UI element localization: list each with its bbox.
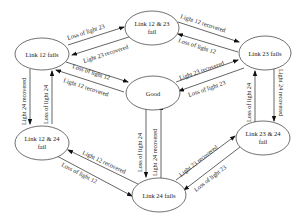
node-link-12-23-fail: Link 12 & 23 fail <box>125 11 179 45</box>
edge-l1223-to-l12: Light 23 recovered <box>72 36 132 64</box>
node-link-12-24-fail: Link 12 & 24 fail <box>15 126 69 160</box>
edge-label: Loss of light 12 <box>178 36 217 55</box>
node-link-23-24-fail: Link 23 & 24 fail <box>236 121 290 155</box>
edge-label: Loss of light 24 <box>136 133 143 172</box>
node-label: Link 12 fails <box>25 51 59 58</box>
node-label-line2: fail <box>259 138 268 145</box>
edge-good-to-l23: Light 23 recovered <box>176 59 238 82</box>
node-label: Link 12 & 23 <box>134 20 169 27</box>
edge-l2324-to-l23: Loss of light 24 <box>245 71 255 123</box>
edge-label: Light 24 recovered <box>20 77 27 125</box>
edge-l23-to-l2324: Light 24 recovered <box>274 67 285 121</box>
edge-label: Loss of light 12 <box>72 62 111 81</box>
edge-label: Loss of light 24 <box>245 83 252 122</box>
node-label: Link 23 & 24 <box>245 130 281 137</box>
node-label: Link 12 & 24 <box>24 135 60 142</box>
edge-label: Light 23 recovered <box>178 59 226 81</box>
edge-label: Loss of light 24 <box>42 85 49 124</box>
node-good: Good <box>126 76 180 110</box>
node-label: Good <box>146 90 161 97</box>
node-link-23-fails: Link 23 fails <box>239 36 291 70</box>
edge-l24-to-good: Light 24 recovered <box>151 105 161 178</box>
node-label: Link 24 fails <box>142 192 176 199</box>
edge-label: Loss of light 23 <box>192 163 227 193</box>
edge-l12-to-l1224: Light 24 recovered <box>20 69 30 125</box>
edge-l23-to-l1223: Loss of light 12 <box>178 34 238 55</box>
state-diagram: Loss of light 23 Light 23 recovered Ligh… <box>0 0 302 220</box>
node-link-12-fails: Link 12 fails <box>15 38 69 70</box>
edge-label: Light 12 recovered <box>63 76 111 97</box>
edge-l1224-to-l12: Loss of light 24 <box>42 71 52 124</box>
edge-label: Loss of light 12 <box>61 161 99 185</box>
node-label-line2: fail <box>38 143 47 150</box>
edge-label: Light 23 recovered <box>82 42 130 63</box>
node-link-24-fails: Link 24 fails <box>132 178 186 212</box>
node-label: Link 23 fails <box>248 50 282 57</box>
edge-label: Light 24 recovered <box>151 128 158 176</box>
edge-l1223-to-l23: Light 12 recovered <box>178 12 239 42</box>
edge-label: Loss of light 23 <box>66 22 105 41</box>
edge-label: Light 24 recovered <box>278 69 285 117</box>
edge-l24-to-l1224: Light 12 recovered <box>68 149 138 184</box>
edge-label: Light 12 recovered <box>82 149 128 176</box>
edge-good-to-l24: Loss of light 24 <box>136 104 146 177</box>
node-label-line2: fail <box>148 28 157 35</box>
